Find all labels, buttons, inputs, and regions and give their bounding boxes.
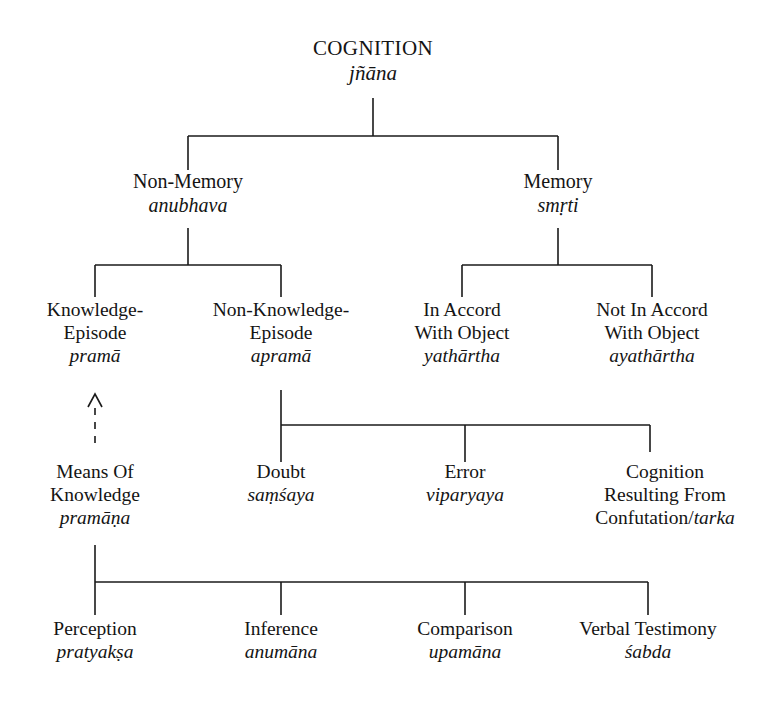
node-verbal-testimony: Verbal Testimony śabda — [579, 617, 716, 663]
node-not-in-accord-with-object: Not In Accord With Object ayathārtha — [596, 298, 708, 367]
node-error-sanskrit: viparyaya — [426, 483, 504, 506]
node-memory-sanskrit: smṛti — [524, 194, 593, 218]
node-memory-english: Memory — [524, 170, 593, 194]
node-verbal-testimony-english: Verbal Testimony — [579, 617, 716, 640]
edge-means-to-knowledge-arrowhead — [88, 394, 102, 407]
node-non-knowledge-episode-english-line2: Episode — [213, 321, 349, 344]
node-confutation-sanskrit: tarka — [694, 507, 735, 528]
node-confutation-english-line2: Resulting From — [595, 483, 735, 506]
node-cognition-english: COGNITION — [313, 36, 433, 61]
node-doubt-english: Doubt — [247, 460, 314, 483]
node-cognition: COGNITION jñāna — [313, 36, 433, 86]
node-perception: Perception pratyakṣa — [53, 617, 136, 663]
node-means-of-knowledge-english-line2: Knowledge — [50, 483, 140, 506]
node-memory: Memory smṛti — [524, 170, 593, 217]
node-doubt-sanskrit: saṃśaya — [247, 483, 314, 506]
node-comparison: Comparison upamāna — [417, 617, 512, 663]
node-not-in-accord-english-line1: Not In Accord — [596, 298, 708, 321]
node-inference-english: Inference — [244, 617, 318, 640]
node-non-knowledge-episode: Non-Knowledge- Episode apramā — [213, 298, 349, 367]
node-non-knowledge-episode-english-line1: Non-Knowledge- — [213, 298, 349, 321]
node-error: Error viparyaya — [426, 460, 504, 506]
node-non-knowledge-episode-sanskrit: apramā — [213, 344, 349, 367]
node-confutation: Cognition Resulting From Confutation/tar… — [595, 460, 735, 529]
node-inference: Inference anumāna — [244, 617, 318, 663]
node-in-accord-english-line1: In Accord — [414, 298, 509, 321]
node-cognition-sanskrit: jñāna — [313, 61, 433, 86]
node-comparison-sanskrit: upamāna — [417, 640, 512, 663]
node-non-memory-sanskrit: anubhava — [133, 194, 243, 218]
node-confutation-english-line3: Confutation/ — [595, 507, 694, 528]
node-inference-sanskrit: anumāna — [244, 640, 318, 663]
node-comparison-english: Comparison — [417, 617, 512, 640]
node-means-of-knowledge: Means Of Knowledge pramāṇa — [50, 460, 140, 529]
node-knowledge-episode-english-line1: Knowledge- — [47, 298, 143, 321]
node-doubt: Doubt saṃśaya — [247, 460, 314, 506]
node-in-accord-sanskrit: yathārtha — [414, 344, 509, 367]
node-knowledge-episode-english-line2: Episode — [47, 321, 143, 344]
node-perception-sanskrit: pratyakṣa — [53, 640, 136, 663]
node-non-memory-english: Non-Memory — [133, 170, 243, 194]
node-non-memory: Non-Memory anubhava — [133, 170, 243, 217]
node-in-accord-with-object: In Accord With Object yathārtha — [414, 298, 509, 367]
node-verbal-testimony-sanskrit: śabda — [579, 640, 716, 663]
node-knowledge-episode: Knowledge- Episode pramā — [47, 298, 143, 367]
node-means-of-knowledge-sanskrit: pramāṇa — [50, 506, 140, 529]
node-knowledge-episode-sanskrit: pramā — [47, 344, 143, 367]
node-in-accord-english-line2: With Object — [414, 321, 509, 344]
node-not-in-accord-sanskrit: ayathārtha — [596, 344, 708, 367]
node-confutation-english-line1: Cognition — [595, 460, 735, 483]
node-perception-english: Perception — [53, 617, 136, 640]
node-confutation-line3: Confutation/tarka — [595, 506, 735, 529]
node-means-of-knowledge-english-line1: Means Of — [50, 460, 140, 483]
node-not-in-accord-english-line2: With Object — [596, 321, 708, 344]
cognition-tree-diagram: COGNITION jñāna Non-Memory anubhava Memo… — [0, 0, 769, 712]
node-error-english: Error — [426, 460, 504, 483]
